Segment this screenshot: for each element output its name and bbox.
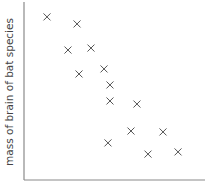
data-point bbox=[74, 20, 81, 27]
data-point bbox=[127, 128, 134, 135]
data-point bbox=[43, 13, 50, 20]
data-point bbox=[106, 81, 113, 88]
data-point bbox=[64, 47, 71, 54]
scatter-chart: mass of brain of bat species bbox=[0, 0, 207, 187]
data-point bbox=[101, 65, 108, 72]
data-point bbox=[76, 70, 83, 77]
data-point bbox=[175, 148, 182, 155]
data-point bbox=[104, 139, 111, 146]
data-point bbox=[106, 97, 113, 104]
data-point bbox=[144, 151, 151, 158]
data-point bbox=[160, 128, 167, 135]
data-point bbox=[87, 45, 94, 52]
data-point bbox=[133, 101, 140, 108]
scatter-points bbox=[43, 13, 181, 157]
y-axis-label: mass of brain of bat species bbox=[3, 18, 15, 166]
